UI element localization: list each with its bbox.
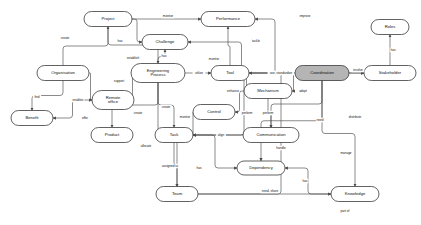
edge-coordination-to-mechanism	[292, 73, 295, 91]
node-benefit[interactable]: Benefit	[11, 111, 53, 126]
node-task[interactable]: Task	[155, 128, 193, 143]
node-label-benefit: Benefit	[25, 115, 39, 120]
node-label-communication: Communication	[256, 132, 286, 137]
node-team[interactable]: Team	[156, 187, 198, 202]
node-tool[interactable]: Tool	[211, 66, 249, 81]
edge-project-to-challenge	[132, 19, 142, 42]
edge-task-to-dependency	[193, 135, 237, 168]
node-label-product: Product	[105, 132, 120, 137]
edge-label-engproc-team: allocate	[141, 144, 152, 148]
node-coordination[interactable]: Coordination	[295, 66, 349, 81]
edge-label-tool-mechanism: enhance	[227, 89, 239, 93]
edge-label-control-task: monitor	[180, 115, 190, 119]
edge-organisation-to-project	[63, 27, 108, 66]
edge-label-mechanism-control: perform	[242, 111, 253, 115]
edge-label-project-challenge: has	[118, 39, 123, 43]
node-roles[interactable]: Roles	[371, 20, 409, 35]
concept-map-diagram: ProjectPerformanceRolesChallengeOrganisa…	[0, 0, 421, 225]
edge-label-communication-task: align	[218, 133, 225, 137]
node-challenge[interactable]: Challenge	[142, 35, 188, 50]
node-remoteoffice[interactable]: Remoteoffice	[92, 91, 134, 110]
node-label-dependency: Dependency	[249, 165, 273, 170]
node-mechanism[interactable]: Mechanism	[244, 84, 292, 99]
node-label-performance: Performance	[216, 16, 241, 21]
edge-label-stakeholder-roles: has	[391, 48, 396, 52]
edge-label-coordination-dependency: manage	[340, 151, 351, 155]
edge-tool-to-performance	[228, 27, 230, 66]
node-label-challenge: Challenge	[156, 39, 176, 44]
node-label-control: Control	[207, 109, 221, 114]
edge-label-organisation-benefit: find	[35, 95, 40, 99]
edge-label-coordination-task: handle	[276, 146, 286, 150]
node-label-team: Team	[172, 191, 183, 196]
node-project[interactable]: Project	[84, 12, 132, 27]
edge-label-coordination-communication: need	[317, 118, 324, 122]
edge-label-coordination-performance: improve	[299, 14, 310, 18]
edge-label-coordination-tool: use, standardize	[270, 71, 293, 75]
edge-label-knowledge-dependency: has	[303, 179, 308, 183]
node-control[interactable]: Control	[193, 105, 235, 120]
node-label-tool: Tool	[226, 70, 234, 75]
edge-label-task-team: assigned to	[162, 164, 178, 168]
edge-label-organisation-remoteoffice: enables	[73, 98, 84, 102]
node-label-organisation: Organisation	[51, 70, 75, 75]
edge-label-remoteoffice-engproc: support	[114, 79, 124, 83]
edge-label-project-performance: monitor	[163, 14, 173, 18]
edge-label-organisation-project: create	[61, 36, 70, 40]
node-engproc[interactable]: EngineeringProcess	[131, 64, 185, 83]
edge-label-engproc-task: create	[162, 105, 171, 109]
edge-organisation-to-remoteoffice	[89, 73, 92, 100]
node-organisation[interactable]: Organisation	[37, 66, 89, 81]
edge-coordination-to-knowledge	[322, 81, 355, 187]
edge-label-coordination-mechanism: adopt	[299, 89, 307, 93]
node-communication[interactable]: Communication	[243, 128, 299, 143]
node-dependency[interactable]: Dependency	[237, 161, 285, 175]
node-label-task: Task	[170, 132, 180, 137]
node-label-stakeholder: Stakeholder	[379, 70, 402, 75]
edge-label-coordination-knowledge: distribute	[349, 115, 362, 119]
edge-label-task-dependency: has	[197, 166, 202, 170]
edge-label-team-stakeholder: part of	[341, 209, 350, 213]
edge-coordination-to-performance	[255, 19, 295, 73]
edge-label-tool-performance: monitor	[209, 57, 219, 61]
diagram-canvas: ProjectPerformanceRolesChallengeOrganisa…	[0, 0, 421, 225]
edge-label-project-engproc: establish	[127, 56, 139, 60]
node-performance[interactable]: Performance	[201, 12, 255, 27]
edge-label-engproc-challenge: has	[162, 54, 167, 58]
node-label-knowledge: Knowledge	[345, 191, 366, 196]
node-stakeholder[interactable]: Stakeholder	[364, 66, 416, 81]
node-label-roles: Roles	[385, 24, 396, 29]
node-label-mechanism: Mechanism	[257, 88, 279, 93]
edge-label-coordination-challenge: tackle	[252, 39, 260, 43]
edge-label-engproc-tool: utilize	[195, 71, 203, 75]
edge-label-mechanism-communication: perform	[263, 111, 274, 115]
edge-label-coordination-stakeholder: involve	[353, 68, 363, 72]
node-knowledge[interactable]: Knowledge	[331, 187, 379, 202]
node-label-coordination: Coordination	[310, 70, 334, 75]
edge-label-remoteoffice-benefit: offer	[82, 116, 88, 120]
edge-mechanism-to-control	[235, 91, 244, 112]
node-product[interactable]: Product	[91, 128, 133, 143]
edge-label-team-knowledge: need, share	[262, 189, 279, 193]
edge-label-engproc-product: create	[134, 111, 143, 115]
node-label-project: Project	[101, 16, 115, 21]
